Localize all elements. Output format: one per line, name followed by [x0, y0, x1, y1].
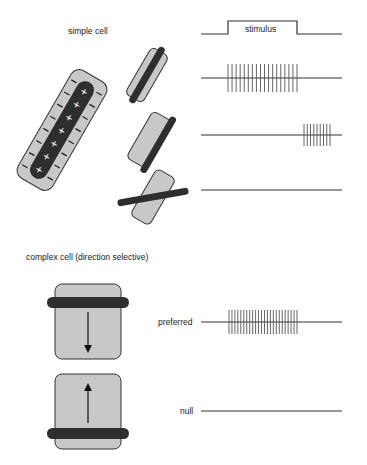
complex-cell-title: complex cell (direction selective) [26, 252, 148, 262]
null-label: null [180, 406, 193, 416]
simple-cell-title: simple cell [68, 26, 108, 36]
complex-field-preferred [47, 284, 129, 359]
stimulus-label: stimulus [245, 24, 276, 34]
small-field-edge [124, 106, 178, 174]
diagram-canvas: + + + + + + + [0, 0, 367, 465]
receptive-field: + + + + + + + [14, 66, 111, 193]
small-field-centered [122, 42, 171, 107]
complex-field-null [47, 374, 129, 449]
preferred-label: preferred [158, 317, 193, 327]
